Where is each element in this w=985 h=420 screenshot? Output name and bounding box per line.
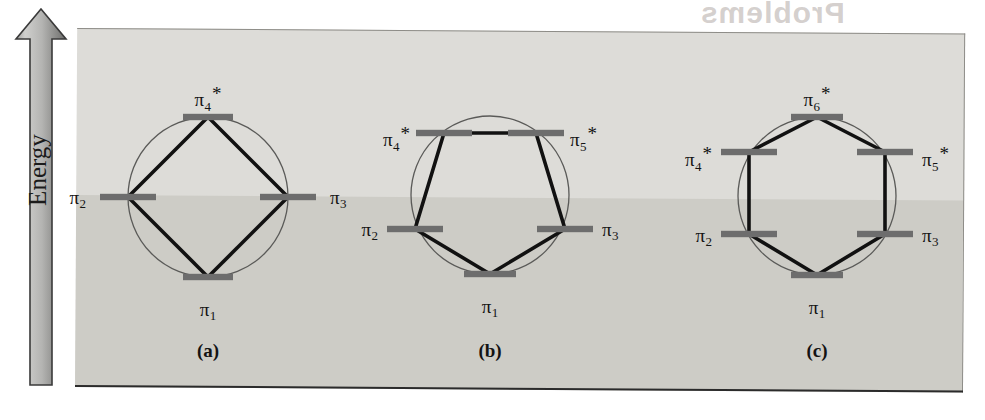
level-label-pi5s: π5* [922, 144, 949, 173]
energy-level-bar-pi3 [537, 226, 593, 232]
pi-symbol: π [685, 149, 695, 170]
energy-level-bar-pi4s [721, 149, 777, 155]
level-index: 5 [932, 159, 939, 174]
level-index: 5 [580, 139, 587, 154]
level-index: 2 [371, 228, 378, 243]
bond-line [817, 117, 885, 152]
antibonding-star: * [400, 123, 411, 144]
panel-caption-2: (b) [478, 340, 501, 362]
level-label-pi1: π1 [809, 298, 826, 320]
pi-symbol: π [922, 225, 932, 246]
level-label-pi6s: π6* [803, 84, 830, 113]
level-index: 3 [932, 234, 939, 249]
pi-symbol: π [695, 225, 705, 246]
bond-line [415, 229, 490, 274]
bond-line [536, 133, 565, 229]
level-label-pi2: π2 [69, 188, 86, 210]
level-label-pi4s: π4* [685, 144, 712, 173]
energy-level-bar-pi4s [183, 114, 233, 120]
level-label-pi3: π3 [602, 220, 619, 242]
level-index: 2 [705, 234, 712, 249]
bond-line [749, 234, 817, 275]
level-index: 1 [491, 305, 498, 320]
level-index: 2 [79, 196, 86, 211]
bond-line [817, 234, 885, 275]
level-label-pi2: π2 [695, 226, 712, 248]
bond-line [208, 197, 288, 277]
antibonding-star: * [702, 143, 713, 164]
bond-line [128, 117, 208, 197]
level-label-pi3: π3 [922, 226, 939, 248]
inscribing-circle-hexagon [738, 117, 896, 275]
antibonding-star: * [587, 123, 598, 144]
energy-level-bar-pi1 [183, 274, 233, 280]
level-index: 4 [393, 139, 400, 154]
energy-level-bar-pi1 [464, 271, 516, 277]
level-label-pi5s: π5* [570, 124, 597, 153]
level-index: 6 [813, 99, 820, 114]
pi-symbol: π [330, 187, 340, 208]
pi-symbol: π [69, 187, 79, 208]
level-index: 4 [204, 99, 211, 114]
antibonding-star: * [211, 83, 222, 104]
pi-symbol: π [803, 89, 813, 110]
level-label-pi4s: π4* [194, 84, 221, 113]
level-label-pi3: π3 [330, 188, 347, 210]
panel-caption-1: (a) [197, 340, 219, 362]
energy-level-bar-pi2 [387, 226, 443, 232]
level-index: 1 [818, 306, 825, 321]
level-label-pi2: π2 [361, 220, 378, 242]
inscribing-circle-pentagon [411, 116, 569, 274]
pi-symbol: π [200, 299, 210, 320]
energy-level-bar-pi6s [791, 114, 843, 120]
bond-line [749, 117, 817, 152]
bond-line [208, 117, 288, 197]
level-index: 4 [695, 159, 702, 174]
level-label-pi4s: π4* [383, 124, 410, 153]
bond-line [128, 197, 208, 277]
pi-symbol: π [482, 296, 492, 317]
level-index: 3 [340, 196, 347, 211]
pi-symbol: π [361, 219, 371, 240]
energy-level-bar-pi3 [857, 231, 913, 237]
pi-symbol: π [383, 129, 393, 150]
energy-level-bars [100, 114, 913, 280]
pi-symbol: π [809, 297, 819, 318]
energy-level-bar-pi5s [857, 149, 913, 155]
energy-level-bar-pi4s [416, 130, 472, 136]
bond-line [415, 133, 444, 229]
figure-canvas: Problems Energy π1π2π3π4*π1π2 [0, 0, 985, 420]
level-label-pi1: π1 [482, 297, 499, 319]
energy-level-bar-pi5s [508, 130, 564, 136]
polygon-bonds [128, 117, 885, 277]
level-index: 3 [612, 228, 619, 243]
energy-level-bar-pi1 [791, 272, 843, 278]
level-index: 1 [209, 308, 216, 323]
energy-level-bar-pi2 [100, 194, 156, 200]
pi-symbol: π [570, 129, 580, 150]
energy-level-bar-pi3 [260, 194, 316, 200]
level-label-pi1: π1 [200, 300, 217, 322]
bond-line [490, 229, 565, 274]
pi-symbol: π [602, 219, 612, 240]
panel-caption-3: (c) [806, 340, 827, 362]
antibonding-star: * [939, 143, 950, 164]
energy-level-bar-pi2 [721, 231, 777, 237]
pi-symbol: π [922, 149, 932, 170]
pi-symbol: π [194, 89, 204, 110]
antibonding-star: * [820, 83, 831, 104]
